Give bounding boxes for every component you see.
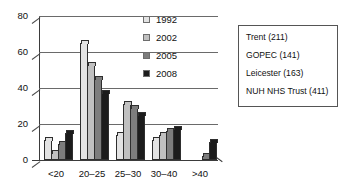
bar-2008-25–30 bbox=[137, 115, 145, 160]
legend-item-2005: 2005 bbox=[143, 48, 205, 63]
bar-top-face bbox=[131, 105, 139, 109]
bar-top-face bbox=[81, 40, 89, 44]
legend-item-1992: 1992 bbox=[143, 12, 205, 27]
bar-top-face bbox=[88, 62, 96, 66]
bar-top-face bbox=[138, 112, 146, 116]
site-note-line: GOPEC (141) bbox=[246, 50, 330, 60]
bar-chart: 020406080 <2020–2525–3030–40>40 19922002… bbox=[0, 0, 232, 190]
legend-swatch-2005 bbox=[143, 52, 150, 59]
bar-2008-20–25 bbox=[101, 93, 109, 160]
y-axis-tick-label: 40 bbox=[4, 83, 28, 93]
x-axis-tick-label: >40 bbox=[180, 168, 220, 179]
site-note-line: Leicester (163) bbox=[246, 68, 330, 78]
legend-item-2008: 2008 bbox=[143, 66, 205, 81]
legend-item-label: 1992 bbox=[156, 15, 177, 25]
bar-top-face bbox=[95, 76, 103, 80]
site-note-line: NUH NHS Trust (411) bbox=[246, 86, 330, 96]
legend-swatch-2002 bbox=[143, 34, 150, 41]
y-axis-tick-label: 0 bbox=[4, 155, 28, 165]
site-note-line: Trent (211) bbox=[246, 32, 330, 42]
bar-group bbox=[80, 16, 116, 160]
x-axis-tick-label: 20–25 bbox=[72, 168, 112, 179]
y-axis-tick-label: 20 bbox=[4, 119, 28, 129]
bar-top-face bbox=[66, 130, 74, 134]
y-axis-tick-label: 60 bbox=[4, 47, 28, 57]
bar-2008-<20 bbox=[65, 133, 73, 160]
bar-group bbox=[44, 16, 80, 160]
legend-swatch-2008 bbox=[143, 70, 150, 77]
figure-root: 020406080 <2020–2525–3030–40>40 19922002… bbox=[0, 0, 345, 190]
bar-2008->40 bbox=[209, 142, 217, 160]
bar-top-face bbox=[102, 90, 110, 94]
x-axis-line bbox=[32, 160, 218, 161]
x-axis-tick-label: 25–30 bbox=[108, 168, 148, 179]
legend-swatch-1992 bbox=[143, 16, 150, 23]
y-axis-tick-label: 80 bbox=[4, 11, 28, 21]
chart-legend: 1992200220052008 bbox=[143, 12, 205, 84]
legend-item-2002: 2002 bbox=[143, 30, 205, 45]
bar-2008-30–40 bbox=[173, 129, 181, 160]
bar-top-face bbox=[45, 137, 53, 141]
legend-item-label: 2002 bbox=[156, 33, 177, 43]
legend-item-label: 2008 bbox=[156, 69, 177, 79]
sites-note-box: Trent (211)GOPEC (141)Leicester (163)NUH… bbox=[238, 25, 338, 107]
x-axis-tick-label: <20 bbox=[36, 168, 76, 179]
legend-item-label: 2005 bbox=[156, 51, 177, 61]
bar-top-face bbox=[174, 126, 182, 130]
bar-top-face bbox=[210, 139, 218, 143]
x-axis-tick-label: 30–40 bbox=[144, 168, 184, 179]
